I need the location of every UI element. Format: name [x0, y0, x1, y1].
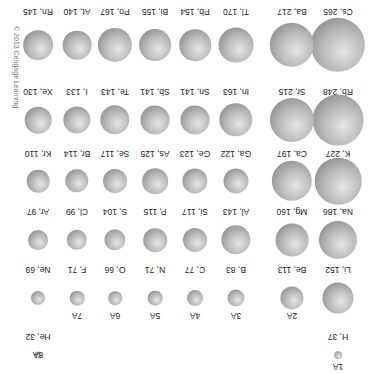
element-label: In, 163	[223, 87, 249, 97]
atom-ne	[31, 291, 45, 305]
atom-ba	[270, 23, 314, 67]
element-label: Al, 143	[223, 207, 249, 217]
atom-ar	[28, 230, 48, 250]
group-label-8a: 8A	[33, 350, 43, 360]
element-label: Po, 167	[100, 7, 129, 17]
element-label: Ne, 69	[25, 265, 50, 275]
element-label: Br, 114	[64, 149, 90, 159]
group-label-4a: 4A	[190, 311, 200, 321]
element-label: Ba, 217	[277, 7, 306, 17]
element-label: Mg, 160	[277, 207, 308, 217]
atom-tl	[219, 28, 254, 63]
atom-sr	[270, 98, 314, 142]
element-label: I, 133	[66, 87, 87, 97]
atom-ge	[182, 168, 207, 193]
element-label: As, 125	[141, 149, 170, 159]
atom-as	[142, 168, 168, 194]
element-label: Xe, 130	[23, 87, 52, 97]
element-label: Sb, 141	[140, 87, 169, 97]
element-label: K, 227	[326, 149, 351, 159]
element-label: Kr, 110	[25, 149, 51, 159]
atom-in	[219, 103, 252, 136]
atom-s	[104, 229, 125, 250]
group-label-2a: 2A	[287, 311, 297, 321]
group-label-5a: 5A	[150, 311, 160, 321]
atom-al	[221, 225, 250, 254]
atom-po	[98, 28, 132, 62]
copyright-note: © 2013 Cengage Learning	[13, 26, 20, 108]
atom-si	[183, 228, 207, 252]
element-label: S, 104	[103, 207, 128, 217]
atom-xe	[25, 107, 52, 134]
atom-rb	[313, 95, 364, 146]
element-label: Li, 152	[325, 265, 351, 275]
atom-br	[65, 169, 88, 192]
group-label-1a: 1A	[333, 362, 343, 372]
atom-at	[63, 31, 92, 60]
element-label: N, 71	[145, 265, 165, 275]
atom-se	[103, 169, 127, 193]
element-label: Cs, 265	[323, 7, 352, 17]
atom-kr	[27, 170, 50, 193]
atom-o	[108, 291, 122, 305]
element-label: Sr, 215	[279, 87, 306, 97]
element-label: B, 83	[226, 265, 246, 275]
element-label: Sn, 141	[180, 87, 209, 97]
atom-cl	[67, 230, 87, 250]
group-label-3a: 3A	[231, 311, 241, 321]
atomic-radii-figure: © 2013 Cengage Learning H, 37He, 32Li, 1…	[0, 0, 372, 374]
atom-sn	[181, 106, 210, 135]
atom-li	[322, 282, 353, 313]
element-label: Rn, 145	[23, 7, 53, 17]
element-label: Bi, 155	[142, 7, 168, 17]
element-label: Be, 113	[278, 265, 307, 275]
atom-te	[100, 105, 129, 134]
atom-mg	[276, 224, 309, 257]
element-label: Na, 186	[323, 207, 353, 217]
atom-p	[143, 228, 167, 252]
element-label: Ar, 97	[27, 207, 49, 217]
element-label: P, 115	[144, 207, 167, 217]
atom-cs	[311, 18, 365, 72]
atom-h	[334, 351, 342, 359]
element-label: Pb, 154	[180, 7, 209, 17]
atom-f	[70, 291, 85, 306]
element-label: Tl, 170	[223, 7, 249, 17]
element-label: He, 32	[25, 332, 50, 342]
atom-ga	[224, 169, 249, 194]
atom-pb	[179, 29, 211, 61]
atom-k	[315, 158, 362, 205]
atom-rn	[23, 30, 53, 60]
element-label: Cl, 99	[66, 207, 88, 217]
element-label: Ge, 123	[180, 149, 210, 159]
element-label: At, 140	[64, 7, 91, 17]
element-label: Te, 143	[101, 87, 129, 97]
atom-n	[148, 291, 163, 306]
atom-na	[319, 221, 357, 259]
element-label: Ca, 197	[277, 149, 307, 159]
element-label: O, 66	[105, 265, 126, 275]
element-label: H, 37	[328, 332, 348, 342]
atom-i	[63, 106, 90, 133]
group-label-6a: 6A	[110, 311, 120, 321]
element-label: Rb, 248	[323, 87, 353, 97]
atom-sb	[141, 106, 170, 135]
element-label: Ga, 122	[221, 149, 251, 159]
element-label: Si, 117	[182, 207, 208, 217]
element-label: F, 71	[68, 265, 86, 275]
element-label: C, 77	[185, 265, 205, 275]
atom-c	[187, 290, 203, 306]
group-label-7a: 7A	[72, 311, 82, 321]
atom-b	[228, 290, 245, 307]
atom-bi	[139, 29, 171, 61]
element-label: Se, 117	[101, 149, 130, 159]
atom-be	[280, 286, 303, 309]
atom-ca	[272, 161, 312, 201]
